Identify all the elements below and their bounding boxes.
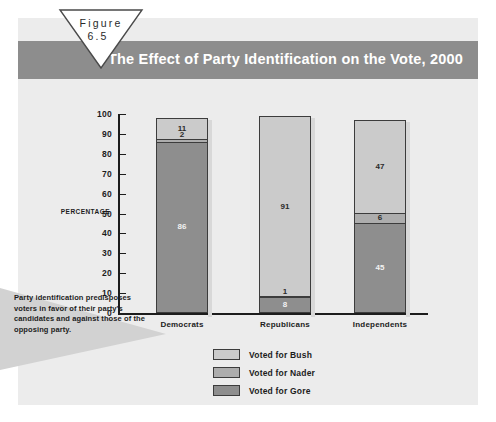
bar-segment-value: 6 xyxy=(378,214,382,222)
bar-segment-value: 45 xyxy=(376,264,385,272)
bar-segment-value: 47 xyxy=(376,163,385,171)
bar-segment-value: 91 xyxy=(281,203,290,211)
y-axis-tick-label: 50 xyxy=(86,209,112,219)
x-axis-category-label: Republicans xyxy=(230,320,340,329)
figure-number: 6.5 xyxy=(58,30,138,42)
caption-text: Party identification predisposes voters … xyxy=(14,293,154,335)
bar-segment[interactable]: 91 xyxy=(259,116,311,297)
bar-shadow xyxy=(208,120,212,317)
bar-segment[interactable]: 45 xyxy=(354,223,406,313)
bar-segment-value: 2 xyxy=(180,131,184,139)
chart-title: The Effect of Party Identification on th… xyxy=(108,51,468,67)
y-axis-tick-label: 30 xyxy=(86,248,112,258)
legend-swatch xyxy=(213,367,240,378)
x-axis-category-label: Independents xyxy=(325,320,435,329)
y-axis-tick-label: 70 xyxy=(86,169,112,179)
figure-label: Figure xyxy=(58,16,144,30)
y-axis-tick-label: 20 xyxy=(86,268,112,278)
bar-segment-value: 86 xyxy=(178,223,187,231)
legend-item[interactable]: Voted for Bush xyxy=(213,347,315,362)
legend-swatch xyxy=(213,349,240,360)
legend-label: Voted for Bush xyxy=(249,350,312,360)
chart-legend: Voted for BushVoted for NaderVoted for G… xyxy=(213,347,315,401)
legend-item[interactable]: Voted for Gore xyxy=(213,383,315,398)
y-axis-tick-label: 90 xyxy=(86,129,112,139)
figure-number-tag: Figure 6.5 xyxy=(58,8,144,70)
y-axis-tick-label: 40 xyxy=(86,228,112,238)
legend-label: Voted for Nader xyxy=(249,368,315,378)
bar-shadow xyxy=(311,118,315,317)
legend-swatch xyxy=(213,385,240,396)
y-axis-tick-label: 60 xyxy=(86,189,112,199)
legend-item[interactable]: Voted for Nader xyxy=(213,365,315,380)
bar-group[interactable]: 9118 xyxy=(259,114,311,313)
bar-segment-value: 1 xyxy=(283,288,287,296)
bar-group[interactable]: 11286 xyxy=(156,114,208,313)
bar-segment-value: 8 xyxy=(283,301,287,309)
bar-shadow xyxy=(406,122,410,317)
bar-group[interactable]: 47645 xyxy=(354,114,406,313)
y-axis-tick-label: 80 xyxy=(86,149,112,159)
y-axis-tick-label: 100 xyxy=(86,109,112,119)
bar-segment[interactable]: 8 xyxy=(259,297,311,313)
legend-label: Voted for Gore xyxy=(249,386,311,396)
bar-segment[interactable]: 47 xyxy=(354,120,406,214)
